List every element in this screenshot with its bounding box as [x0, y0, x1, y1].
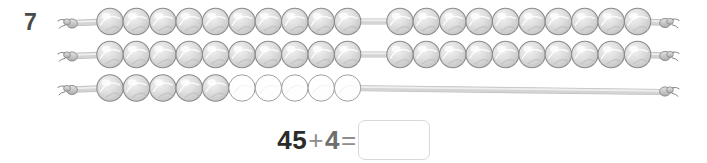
bead-filled[interactable] [334, 8, 360, 34]
string-knot-left-icon [58, 52, 77, 61]
bead-string-row-1 [58, 8, 679, 34]
bead-filled[interactable] [255, 8, 281, 34]
answer-input[interactable] [358, 120, 430, 160]
bead-filled[interactable] [440, 8, 466, 34]
bead-filled[interactable] [572, 41, 598, 67]
string-knot-left-icon [58, 19, 77, 28]
bead-filled[interactable] [545, 8, 571, 34]
bead-filled[interactable] [466, 8, 492, 34]
bead-filled[interactable] [492, 41, 518, 67]
bead-empty[interactable] [229, 75, 255, 101]
bead-filled[interactable] [308, 8, 334, 34]
bead-filled[interactable] [176, 41, 202, 67]
equation-second-number: 4 [325, 125, 340, 155]
bead-filled[interactable] [413, 8, 439, 34]
bead-filled[interactable] [334, 41, 360, 67]
string-knot-left-icon [58, 85, 77, 94]
bead-filled[interactable] [150, 41, 176, 67]
bead-filled[interactable] [97, 41, 123, 67]
bead-filled[interactable] [229, 41, 255, 67]
string-knot-right-icon [660, 51, 679, 60]
bead-filled[interactable] [150, 8, 176, 34]
bead-filled[interactable] [545, 41, 571, 67]
equation-first-number: 45 [277, 125, 307, 155]
bead-filled[interactable] [466, 41, 492, 67]
bead-filled[interactable] [202, 41, 228, 67]
bead-filled[interactable] [624, 41, 650, 67]
equation-plus-sign: + [307, 125, 325, 155]
bead-filled[interactable] [97, 8, 123, 34]
bead-filled[interactable] [97, 75, 123, 101]
bead-filled[interactable] [123, 75, 149, 101]
bead-filled[interactable] [598, 41, 624, 67]
bead-string-graphic [0, 0, 707, 112]
bead-empty[interactable] [282, 75, 308, 101]
bead-filled[interactable] [387, 41, 413, 67]
bead-string-row-2 [58, 41, 679, 67]
bead-string-row-3 [58, 75, 679, 101]
bead-filled[interactable] [492, 8, 518, 34]
bead-filled[interactable] [229, 8, 255, 34]
bead-filled[interactable] [282, 41, 308, 67]
bead-filled[interactable] [123, 41, 149, 67]
bead-empty[interactable] [334, 75, 360, 101]
bead-filled[interactable] [413, 41, 439, 67]
bead-filled[interactable] [150, 75, 176, 101]
bead-filled[interactable] [282, 8, 308, 34]
equation-row: 45 + 4 = [0, 116, 707, 163]
bead-filled[interactable] [176, 75, 202, 101]
bead-filled[interactable] [519, 8, 545, 34]
bead-filled[interactable] [387, 8, 413, 34]
rekenrek-bead-strings [0, 0, 707, 112]
bead-filled[interactable] [624, 8, 650, 34]
bead-filled[interactable] [519, 41, 545, 67]
string-knot-right-icon [660, 18, 679, 27]
bead-empty[interactable] [255, 75, 281, 101]
bead-filled[interactable] [176, 8, 202, 34]
bead-filled[interactable] [255, 41, 281, 67]
bead-empty[interactable] [308, 75, 334, 101]
bead-filled[interactable] [572, 8, 598, 34]
string-knot-right-icon [660, 87, 679, 96]
equation-equals-sign: = [340, 125, 357, 155]
bead-filled[interactable] [202, 8, 228, 34]
bead-filled[interactable] [123, 8, 149, 34]
bead-filled[interactable] [440, 41, 466, 67]
bead-filled[interactable] [308, 41, 334, 67]
bead-filled[interactable] [202, 75, 228, 101]
bead-filled[interactable] [598, 8, 624, 34]
worksheet-question-item: 7 45 + [0, 0, 707, 163]
